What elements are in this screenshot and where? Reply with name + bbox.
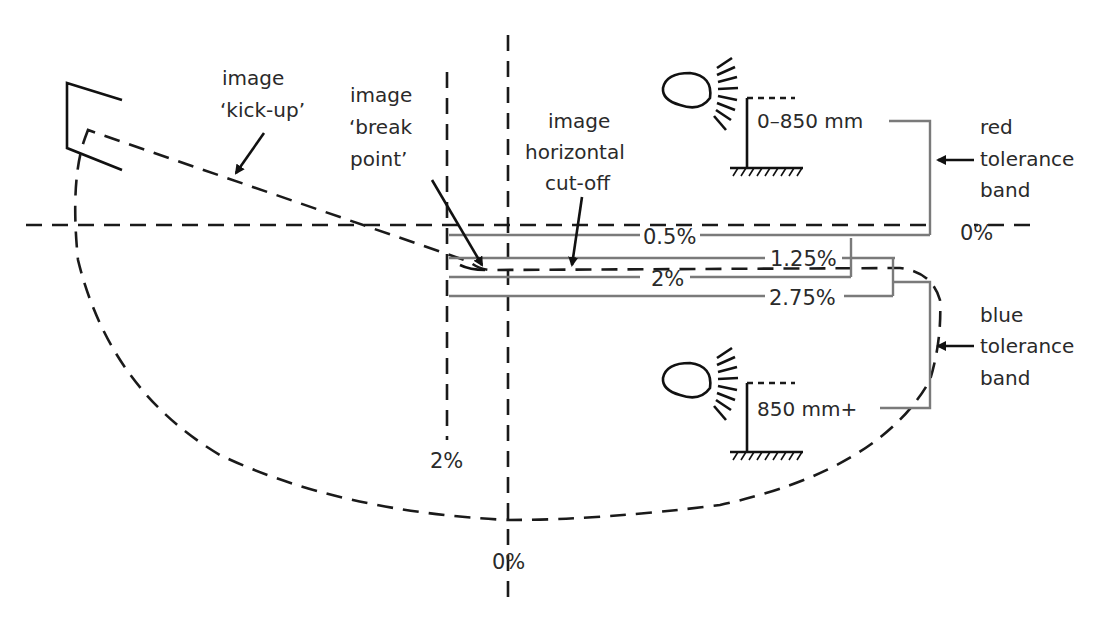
band-2pct-label: 2% [651, 267, 684, 291]
band-1-25pct-label: 1.25% [770, 247, 837, 271]
cut-off-label-line1: image [548, 109, 610, 133]
break-point-label-line3: point’ [350, 147, 407, 171]
vertical-2pct-label: 2% [430, 449, 463, 473]
red-band-connector [889, 121, 930, 235]
red-band-label-line1: red [980, 115, 1013, 139]
screen-bracket-icon [67, 83, 122, 170]
kick-up-label-line1: image [222, 66, 284, 90]
headlamp-beam-diagram: image ‘kick-up’ image ‘break point’ imag… [0, 0, 1111, 629]
break-point-label-line1: image [350, 83, 412, 107]
blue-band-label-line2: tolerance [980, 334, 1074, 358]
blue-band-label-line3: band [980, 366, 1030, 390]
kick-up-label-line2: ‘kick-up’ [220, 98, 305, 122]
kick-up-arrow [236, 133, 264, 173]
mount-height-low-label: 0–850 mm [757, 109, 863, 133]
break-point-label-line2: ‘break [349, 115, 412, 139]
red-band-label-line3: band [980, 178, 1030, 202]
vertical-zero-label: 0% [492, 550, 525, 574]
red-band-label-line2: tolerance [980, 147, 1074, 171]
cut-off-arrow [572, 197, 582, 265]
mount-height-high-label: 850 mm+ [757, 397, 857, 421]
horizontal-zero-label: 0% [960, 221, 993, 245]
blue-band-connector [880, 282, 930, 408]
cut-off-label-line2: horizontal [525, 140, 625, 164]
break-point-arrow [432, 180, 482, 265]
cut-off-label-line3: cut-off [545, 171, 611, 195]
blue-band-label-line1: blue [980, 303, 1023, 327]
band-2-75pct-label: 2.75% [769, 286, 836, 310]
band-0-5pct-label: 0.5% [643, 225, 696, 249]
